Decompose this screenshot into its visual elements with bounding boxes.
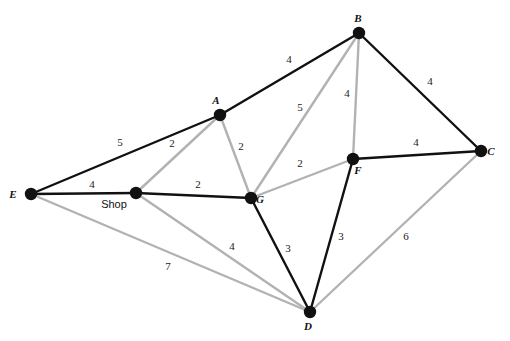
edges-layer (31, 33, 481, 312)
edge-weight-shop-g: 2 (195, 178, 201, 190)
node-d[interactable] (304, 306, 316, 318)
edge-shop-a (136, 115, 220, 193)
node-label-a: A (211, 94, 219, 106)
edge-weight-g-b: 5 (297, 101, 303, 113)
node-b[interactable] (353, 27, 365, 39)
edge-weight-g-f: 2 (297, 157, 303, 169)
edge-weight-e-a: 5 (117, 136, 123, 148)
edge-weight-shop-a: 2 (169, 137, 175, 149)
edge-g-b (251, 33, 359, 198)
edge-b-f (353, 33, 359, 159)
edge-e-shop (31, 193, 136, 194)
node-label-shop: Shop (101, 198, 127, 210)
edge-weight-f-d: 3 (338, 230, 344, 242)
edge-f-d (310, 159, 353, 312)
edge-weight-b-c: 4 (427, 75, 433, 87)
node-label-f: F (353, 164, 362, 176)
edge-weight-e-d: 7 (165, 260, 171, 272)
edge-weight-e-shop: 4 (89, 178, 95, 190)
edge-weight-labels-layer: 5444423322542746 (89, 53, 433, 272)
edge-weight-shop-d: 4 (229, 240, 235, 252)
edge-weight-f-c: 4 (413, 136, 419, 148)
node-e[interactable] (25, 188, 37, 200)
edge-weight-a-b: 4 (286, 53, 292, 65)
edge-weight-a-g: 2 (238, 140, 244, 152)
node-label-e: E (8, 188, 16, 200)
edge-e-a (31, 115, 220, 194)
edge-c-d (310, 151, 481, 312)
edge-a-b (220, 33, 359, 115)
edge-shop-g (136, 193, 251, 198)
node-a[interactable] (214, 109, 226, 121)
edge-a-g (220, 115, 251, 198)
edge-weight-g-d: 3 (285, 242, 291, 254)
node-shop[interactable] (130, 187, 142, 199)
edge-f-c (353, 151, 481, 159)
node-label-c: C (487, 145, 495, 157)
node-label-g: G (256, 193, 264, 205)
edge-b-c (359, 33, 481, 151)
node-label-d: D (303, 320, 312, 332)
edge-e-d (31, 194, 310, 312)
edge-shop-d (136, 193, 310, 312)
graph-diagram: 5444423322542746 ABCDEFGShop (0, 0, 510, 341)
node-label-b: B (353, 12, 361, 24)
edge-weight-b-f: 4 (344, 87, 350, 99)
edge-weight-c-d: 6 (403, 230, 409, 242)
edge-g-d (251, 198, 310, 312)
node-c[interactable] (475, 145, 487, 157)
graph-canvas: 5444423322542746 ABCDEFGShop (0, 0, 510, 341)
